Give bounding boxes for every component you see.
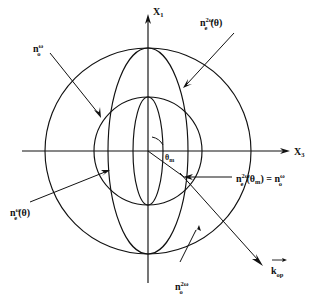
label-no-omega: nωo [33,42,44,57]
label-phase-match: n2ωe(θm) = nωo [236,172,285,187]
axis-labels-group: X1 X3 [153,6,305,158]
label-phase-match-rhs-sup: ω [280,172,285,179]
theta-m-arc [152,137,163,145]
leader-lines-group [30,33,263,266]
theta-m-label: θm [165,153,174,163]
x1-axis-label-sub: 1 [160,11,163,18]
label-phase-match-rhs-sub: o [279,180,282,187]
axes-group [22,14,290,283]
label-k-op-group: kop [271,258,287,278]
leader-no-omega [50,53,98,113]
label-ne-omega-sub: e [14,214,17,221]
label-ne-2omega-sub: e [205,24,208,31]
label-no-2omega-sup: 2ω [181,280,189,287]
theta-m-group: θm [148,137,184,177]
leader-no-2omega [180,230,196,262]
label-no-2omega: n2ωo [175,280,189,295]
leader-no-2omega-arrowhead [195,225,201,234]
label-ne-2omega: n2ωe(θ) [200,16,222,31]
label-phase-match-sub: e [241,180,244,187]
theta-subscript: m [169,157,174,163]
leader-ne-omega [30,172,105,202]
label-ne-2omega-suffix: (θ) [210,17,222,29]
x1-axis-label: X1 [153,6,163,18]
label-no-2omega-sub: o [180,288,183,295]
x3-axis-label: X3 [294,146,305,158]
label-ne-omega: nωe(θ) [10,206,30,221]
k-op-vector-line [180,173,258,260]
label-phase-match-eq: ) = [260,173,274,185]
label-k-op: kop [271,265,284,278]
index-surface-diagram: θm X1 X3 nωo [0,0,318,299]
label-phase-match-theta: (θ [246,173,255,185]
x3-axis-label-sub: 3 [301,151,305,158]
label-k-op-sub: op [277,271,284,278]
label-no-omega-sub: o [37,50,40,57]
label-no-omega-sup: ω [39,42,44,49]
label-ne-omega-suffix: (θ) [18,207,30,219]
